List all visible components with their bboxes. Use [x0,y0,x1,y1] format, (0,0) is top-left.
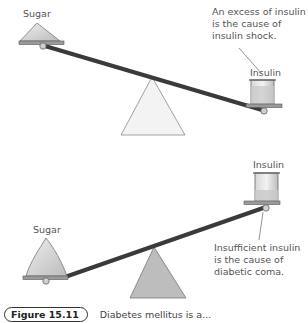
bottom-right-pan [244,201,280,205]
bottom-left-pivot-icon [43,278,49,284]
bottom-fulcrum [130,247,186,298]
top-sugar-pile-icon [20,23,60,41]
bottom-insulin-beaker-icon [253,173,280,201]
bottom-sugar-label: Sugar [33,224,61,236]
top-insulin-label: Insulin [250,67,281,79]
bottom-sugar-pile-icon [26,238,67,276]
top-sugar-label: Sugar [23,8,51,20]
bottom-right-pivot-icon [263,205,269,211]
figure-number-badge: Figure 15.11 [4,307,88,322]
top-right-pan [246,104,282,108]
top-insulin-beaker-icon [249,80,276,104]
bottom-scale [23,173,280,298]
bottom-annotation: Insufficient insulin is the cause of dia… [214,242,308,278]
caption-text: Diabetes mellitus is a... [100,309,211,320]
bottom-annotation-leader [259,212,263,240]
bottom-insulin-label: Insulin [253,159,284,171]
figure-caption: Figure 15.11 Diabetes mellitus is a... [4,307,211,321]
top-annotation: An excess of insulin is the cause of ins… [212,6,308,42]
top-right-pivot-icon [261,108,267,114]
top-left-pivot-icon [40,43,46,49]
